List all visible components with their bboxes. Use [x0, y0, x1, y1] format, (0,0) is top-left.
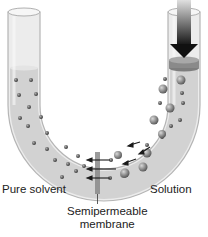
- membrane-label-line2: membrane: [67, 218, 148, 231]
- pure-solvent-label: Pure solvent: [2, 183, 66, 196]
- membrane-label: Semipermeable membrane: [67, 205, 148, 231]
- u-tube-diagram: [0, 0, 208, 237]
- solution-label: Solution: [150, 183, 192, 196]
- membrane-label-line1: Semipermeable: [67, 205, 148, 218]
- piston: [169, 57, 199, 72]
